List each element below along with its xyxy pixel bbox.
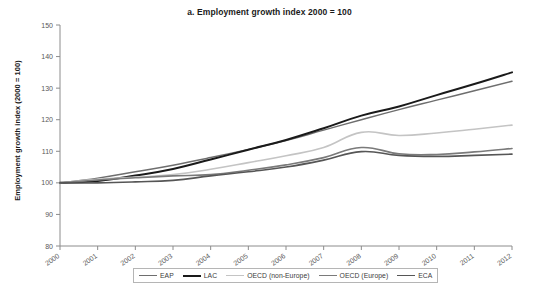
y-tick-label: 110 [42,148,53,155]
series-line [60,147,512,182]
y-tick-label: 140 [41,53,53,60]
x-tick-label: 2000 [44,252,61,267]
y-tick-label: 120 [41,116,53,123]
y-axis-ticks: 8090100110120130140150 [41,22,60,250]
x-tick-label: 2009 [383,252,400,267]
legend-item[interactable]: EAP [139,272,174,279]
chart-figure: a. Employment growth index 2000 = 100 Em… [0,0,539,293]
y-tick-label: 80 [45,243,53,250]
y-tick-label: 90 [45,211,53,218]
x-tick-label: 2011 [459,252,475,266]
x-tick-label: 2004 [194,252,211,267]
x-tick-label: 2010 [420,252,437,267]
legend-swatch-icon [139,275,157,276]
x-tick-label: 2012 [496,252,513,267]
x-tick-label: 2006 [270,252,287,267]
legend-item-label: ECA [418,272,432,279]
legend-item-label: EAP [160,272,174,279]
legend-item[interactable]: OECD (Europe) [319,272,389,279]
legend-swatch-icon [226,275,244,276]
y-tick-label: 100 [41,179,53,186]
legend-swatch-icon [183,275,201,277]
x-tick-label: 2002 [119,252,136,267]
legend-item-label: OECD (Europe) [340,272,389,279]
axis-lines [60,25,512,246]
x-tick-label: 2005 [232,252,249,267]
x-axis-ticks: 2000200120022003200420052006200720082009… [44,246,513,267]
y-tick-label: 150 [41,22,53,29]
x-tick-label: 2001 [81,252,98,267]
legend-item-label: OECD (non-Europe) [247,272,309,279]
plot-area: 8090100110120130140150 20002001200220032… [0,0,539,293]
y-tick-label: 130 [41,85,53,92]
legend-item-label: LAC [204,272,217,279]
x-tick-label: 2007 [307,252,324,267]
series-lines [60,72,512,183]
chart-legend: EAPLACOECD (non-Europe)OECD (Europe)ECA [133,268,438,283]
legend-item[interactable]: ECA [397,272,432,279]
legend-swatch-icon [319,275,337,276]
legend-swatch-icon [397,275,415,276]
x-tick-label: 2003 [157,252,174,267]
legend-item[interactable]: LAC [183,272,217,279]
x-tick-label: 2008 [345,252,362,267]
legend-item[interactable]: OECD (non-Europe) [226,272,309,279]
